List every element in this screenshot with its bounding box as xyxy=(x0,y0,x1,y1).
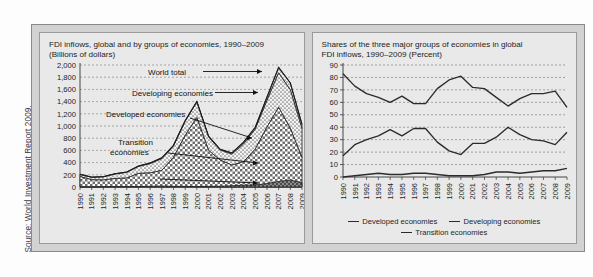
legend-line-icon-developing xyxy=(449,221,460,222)
legend-item-developed: Developed economies xyxy=(348,216,437,227)
x-axis-year-label: 1997 xyxy=(421,183,430,199)
x-axis-year-label: 1998 xyxy=(433,183,442,199)
y-axis-tick-label: 90 xyxy=(329,61,337,70)
left-chart-title: FDI inflows, global and by groups of eco… xyxy=(49,40,298,61)
x-axis-year-label: 1995 xyxy=(134,193,143,209)
x-axis-year-label: 2001 xyxy=(468,183,477,199)
x-axis-year-label: 2006 xyxy=(263,193,272,209)
figure-page: Source: World Investment Report 2009. FD… xyxy=(0,0,593,277)
y-axis-tick-label: 50 xyxy=(329,110,337,119)
x-axis-year-label: 1995 xyxy=(397,183,406,199)
x-axis-year-label: 2002 xyxy=(216,193,225,209)
left-chart-panel: FDI inflows, global and by groups of eco… xyxy=(39,32,305,244)
chart-annotation-label: World total xyxy=(148,68,186,77)
x-axis-year-label: 2005 xyxy=(515,183,524,199)
legend-line-icon-transition xyxy=(401,232,412,233)
x-axis-year-label: 2000 xyxy=(456,183,465,199)
x-axis-year-label: 2008 xyxy=(551,183,560,199)
legend-line-icon-developed xyxy=(348,221,359,222)
y-axis-tick-label: 200 xyxy=(63,171,76,180)
y-axis-tick-label: 400 xyxy=(63,158,76,167)
chart-annotation-label: Developing economies xyxy=(132,89,213,98)
legend-label-developed: Developed economies xyxy=(362,217,437,226)
right-chart-title: Shares of the three major groups of econ… xyxy=(322,40,571,61)
fdi-shares-chart: 0102030405060708090199019911992199319941… xyxy=(313,59,578,219)
x-axis-year-label: 2001 xyxy=(204,193,213,209)
y-axis-tick-label: 1,600 xyxy=(57,85,76,94)
y-axis-tick-label: 800 xyxy=(63,134,76,143)
y-axis-tick-label: 20 xyxy=(329,148,337,157)
x-axis-year-label: 1990 xyxy=(76,193,85,209)
fdi-inflows-chart: 02004006008001,0001,2001,4001,6001,8002,… xyxy=(40,59,305,244)
x-axis-year-label: 2004 xyxy=(503,183,512,199)
legend-item-transition: Transition economies xyxy=(401,227,487,238)
x-axis-year-label: 1990 xyxy=(338,183,347,199)
y-axis-tick-label: 600 xyxy=(63,146,76,155)
x-axis-year-label: 2007 xyxy=(539,183,548,199)
x-axis-year-label: 2009 xyxy=(298,193,305,209)
y-axis-tick-label: 60 xyxy=(329,98,337,107)
legend-row-1: Developed economies Developing economies xyxy=(313,216,577,227)
x-axis-year-label: 2007 xyxy=(274,193,283,209)
y-axis-tick-label: 0 xyxy=(72,183,76,192)
y-axis-tick-label: 1,800 xyxy=(57,73,76,82)
x-axis-year-label: 2000 xyxy=(193,193,202,209)
legend-label-transition: Transition economies xyxy=(415,228,487,237)
y-axis-tick-label: 30 xyxy=(329,135,337,144)
x-axis-year-label: 2008 xyxy=(286,193,295,209)
figure-frame: FDI inflows, global and by groups of eco… xyxy=(31,24,585,252)
legend-item-developing: Developing economies xyxy=(449,216,540,227)
x-axis-year-label: 1992 xyxy=(99,193,108,209)
y-axis-tick-label: 1,200 xyxy=(57,110,76,119)
y-axis-tick-label: 80 xyxy=(329,73,337,82)
x-axis-year-label: 1996 xyxy=(146,193,155,209)
x-axis-year-label: 1993 xyxy=(374,183,383,199)
x-axis-year-label: 1992 xyxy=(362,183,371,199)
x-axis-year-label: 2006 xyxy=(527,183,536,199)
chart-annotation-label: economies xyxy=(110,148,149,157)
x-axis-year-label: 1999 xyxy=(444,183,453,199)
legend-label-developing: Developing economies xyxy=(463,217,540,226)
x-axis-year-label: 2003 xyxy=(492,183,501,199)
legend-row-2: Transition economies xyxy=(313,227,577,238)
chart-annotation-label: Transition xyxy=(118,138,153,147)
right-chart-legend: Developed economies Developing economies… xyxy=(313,216,577,238)
y-axis-tick-label: 40 xyxy=(329,123,337,132)
line-transition-economies xyxy=(343,168,567,177)
line-developing-economies xyxy=(343,127,567,156)
x-axis-year-label: 1997 xyxy=(158,193,167,209)
x-axis-year-label: 1994 xyxy=(385,183,394,199)
x-axis-year-label: 2004 xyxy=(239,193,248,209)
x-axis-year-label: 2003 xyxy=(228,193,237,209)
right-chart-panel: Shares of the three major groups of econ… xyxy=(312,32,578,244)
x-axis-year-label: 2002 xyxy=(480,183,489,199)
y-axis-tick-label: 0 xyxy=(333,173,337,182)
x-axis-year-label: 1996 xyxy=(409,183,418,199)
y-axis-tick-label: 70 xyxy=(329,86,337,95)
x-axis-year-label: 2005 xyxy=(251,193,260,209)
y-axis-tick-label: 1,400 xyxy=(57,97,76,106)
x-axis-year-label: 1994 xyxy=(123,193,132,209)
y-axis-tick-label: 2,000 xyxy=(57,61,76,70)
x-axis-year-label: 1998 xyxy=(169,193,178,209)
x-axis-year-label: 1993 xyxy=(111,193,120,209)
chart-annotation-label: Developed economies xyxy=(106,110,185,119)
x-axis-year-label: 1999 xyxy=(181,193,190,209)
y-axis-tick-label: 10 xyxy=(329,160,337,169)
y-axis-tick-label: 1,000 xyxy=(57,122,76,131)
x-axis-year-label: 2009 xyxy=(562,183,571,199)
x-axis-year-label: 1991 xyxy=(350,183,359,199)
x-axis-year-label: 1991 xyxy=(87,193,96,209)
